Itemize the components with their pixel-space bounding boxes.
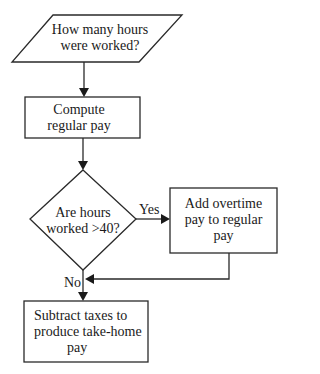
node-text-line: Add overtime: [170, 196, 277, 212]
node-text-line: pay: [34, 340, 148, 356]
decision-node-text: Are hours worked >40?: [33, 205, 133, 237]
node-text-line: Are hours: [33, 205, 133, 221]
arrowhead-icon: [79, 88, 89, 97]
compute-node-text: Compute regular pay: [25, 102, 133, 134]
node-text-line: Subtract taxes to: [34, 308, 148, 324]
no-label: No: [64, 275, 81, 291]
arrowhead-icon: [161, 214, 170, 224]
node-text-line: were worked?: [40, 38, 160, 54]
arrowhead-icon: [78, 292, 88, 301]
edge-overtime-to-merge: [93, 253, 229, 279]
node-text-line: pay to regular: [170, 212, 277, 228]
input-node-text: How many hours were worked?: [40, 22, 160, 54]
taxes-node-text: Subtract taxes to produce take-home pay: [24, 308, 148, 356]
node-text-line: regular pay: [25, 118, 133, 134]
overtime-node-text: Add overtime pay to regular pay: [170, 196, 277, 244]
node-text-line: worked >40?: [33, 221, 133, 237]
yes-label: Yes: [139, 202, 159, 218]
arrowhead-icon: [78, 161, 88, 170]
node-text-line: produce take-home: [34, 324, 148, 340]
node-text-line: pay: [170, 228, 277, 244]
arrowhead-icon: [85, 274, 94, 284]
node-text-line: How many hours: [40, 22, 160, 38]
node-text-line: Compute: [25, 102, 133, 118]
